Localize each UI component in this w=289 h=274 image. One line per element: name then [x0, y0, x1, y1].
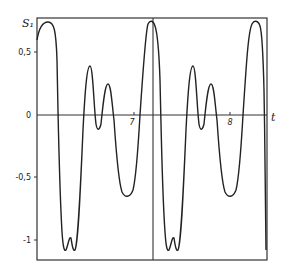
series-s1-line	[37, 21, 266, 250]
x-tick-label: 8	[227, 118, 232, 127]
plot-frame	[37, 18, 267, 260]
y-tick-label: 0,5	[18, 48, 31, 57]
x-tick-label: 7	[129, 118, 135, 127]
y-tick-label: -0,5	[15, 173, 31, 182]
y-axis-title: S₁	[22, 17, 34, 30]
y-tick-label: 0	[26, 111, 31, 120]
y-tick-label: -1	[23, 236, 31, 245]
chart: 0,5 0 -0,5 -1 7 8 S₁ t	[0, 0, 289, 274]
x-axis-title: t	[271, 111, 276, 124]
